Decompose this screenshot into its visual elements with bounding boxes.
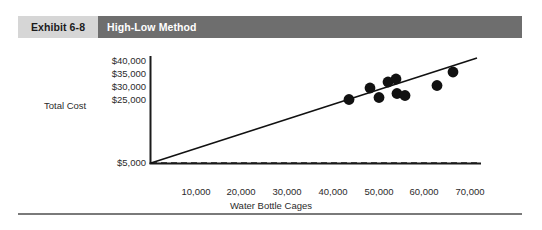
y-tick-label: $30,000 — [90, 82, 146, 92]
data-point — [448, 67, 459, 78]
exhibit-title: High-Low Method — [98, 16, 522, 38]
data-point — [344, 94, 355, 105]
data-point — [400, 90, 411, 101]
scatter-points-group — [344, 67, 459, 105]
x-axis-title: Water Bottle Cages — [0, 200, 542, 211]
chart-figure — [0, 38, 542, 198]
data-point — [391, 74, 402, 85]
exhibit-number-tag: Exhibit 6-8 — [18, 16, 98, 38]
exhibit-header: Exhibit 6-8 High-Low Method — [18, 16, 522, 38]
y-tick-label: $25,000 — [90, 95, 146, 105]
y-axis-title: Total Cost — [44, 100, 86, 111]
y-tick-label: $40,000 — [90, 56, 146, 66]
data-point — [365, 83, 376, 94]
data-point — [374, 92, 385, 103]
x-tick-label: 70,000 — [440, 186, 500, 197]
bottom-divider-rule — [18, 213, 522, 215]
chart-plot-svg — [0, 38, 542, 198]
y-axis-tick-labels: $40,000 $35,000 $30,000 $25,000 $5,000 — [88, 38, 146, 198]
x-axis-tick-labels: 10,000 20,000 30,000 40,000 50,000 60,00… — [0, 186, 542, 200]
total-cost-trend-line — [151, 58, 477, 163]
y-tick-label: $5,000 — [90, 158, 146, 168]
data-point — [432, 80, 443, 91]
y-tick-label: $35,000 — [90, 69, 146, 79]
